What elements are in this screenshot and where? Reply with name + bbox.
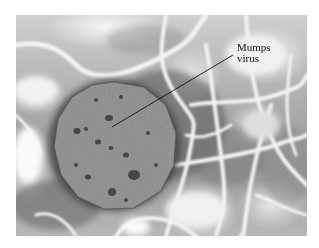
label-line-2: virus [237, 53, 271, 64]
mumps-virus-label: Mumps virus [237, 42, 271, 64]
